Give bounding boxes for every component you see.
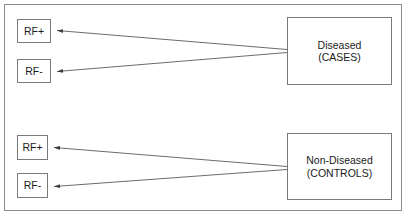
outcome-cases: Diseased (CASES) (287, 17, 392, 85)
arrow-cases-to-rf-positive (57, 31, 287, 50)
arrow-cases-to-rf-negative (57, 53, 287, 72)
outcome-cases-line2: (CASES) (318, 51, 361, 63)
exposure-rf-positive-controls-label: RF+ (22, 141, 42, 153)
outcome-controls: Non-Diseased (CONTROLS) (287, 133, 392, 200)
exposure-rf-positive-controls: RF+ (17, 135, 48, 160)
exposure-rf-positive-cases-label: RF+ (24, 25, 44, 37)
outcome-controls-line1: Non-Diseased (306, 154, 373, 166)
outcome-controls-line2: (CONTROLS) (307, 167, 372, 179)
arrow-controls-to-rf-negative (54, 170, 287, 187)
exposure-rf-negative-controls: RF- (17, 173, 48, 198)
exposure-rf-positive-cases: RF+ (17, 19, 51, 43)
outcome-cases-line1: Diseased (318, 39, 362, 51)
exposure-rf-negative-controls-label: RF- (24, 179, 42, 191)
arrow-controls-to-rf-positive (54, 148, 287, 167)
exposure-rf-negative-cases-label: RF- (25, 65, 43, 77)
diagram-canvas: RF+ RF- Diseased (CASES) RF+ RF- Non-Dis… (0, 0, 410, 218)
exposure-rf-negative-cases: RF- (17, 59, 51, 83)
